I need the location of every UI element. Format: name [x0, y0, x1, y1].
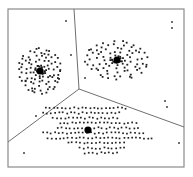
data-point	[86, 112, 88, 114]
data-point	[70, 132, 72, 134]
data-point	[98, 53, 100, 55]
data-point	[91, 142, 93, 144]
data-point	[122, 57, 124, 59]
data-point	[21, 66, 23, 68]
data-point	[93, 128, 95, 130]
data-point	[35, 69, 37, 71]
data-point	[128, 50, 130, 52]
data-point	[132, 52, 134, 54]
data-point	[31, 88, 33, 90]
data-point	[59, 63, 61, 65]
data-point	[99, 122, 101, 124]
data-point	[51, 76, 53, 78]
data-point	[116, 152, 118, 154]
data-point	[57, 81, 59, 83]
data-point	[60, 118, 62, 120]
data-point	[102, 42, 104, 44]
data-point	[101, 151, 103, 153]
data-point	[58, 78, 60, 80]
data-point	[99, 142, 101, 144]
data-point	[130, 61, 132, 63]
data-point	[117, 72, 119, 74]
data-point	[120, 147, 122, 149]
data-point	[66, 133, 68, 135]
data-point	[106, 132, 108, 134]
data-point	[22, 58, 24, 60]
data-point	[53, 74, 55, 76]
data-point	[99, 148, 101, 150]
data-point	[49, 86, 51, 88]
data-point	[42, 132, 44, 134]
data-point	[96, 57, 98, 59]
data-point	[125, 127, 127, 129]
data-point	[106, 128, 108, 130]
data-point	[164, 100, 166, 102]
voronoi-cluster-diagram	[0, 0, 193, 177]
diagram-canvas	[0, 0, 193, 177]
data-point	[119, 142, 121, 144]
boundary-line	[8, 89, 79, 142]
data-point	[41, 52, 43, 54]
data-point	[111, 122, 113, 124]
data-point	[21, 80, 23, 82]
data-point	[19, 76, 21, 78]
data-point	[72, 122, 74, 124]
data-point	[39, 81, 41, 83]
data-point	[47, 65, 49, 67]
data-point	[90, 49, 92, 51]
data-point	[113, 107, 115, 109]
centroid-marker	[84, 126, 91, 133]
data-point	[107, 44, 109, 46]
data-point	[48, 68, 50, 70]
data-point	[65, 118, 67, 120]
data-point	[68, 117, 70, 119]
data-point	[115, 148, 117, 150]
data-point	[30, 72, 32, 74]
data-point	[129, 128, 131, 130]
data-point	[107, 77, 109, 79]
data-point	[108, 118, 110, 120]
data-point	[111, 59, 113, 61]
data-point	[92, 152, 94, 154]
data-point	[77, 127, 79, 129]
data-point	[101, 127, 103, 129]
data-point	[139, 68, 141, 70]
data-point	[79, 137, 81, 139]
data-point	[119, 56, 121, 58]
data-point	[106, 112, 108, 114]
data-point	[138, 51, 140, 53]
data-point	[58, 132, 60, 134]
data-point	[36, 48, 38, 50]
data-point	[92, 64, 94, 66]
data-point	[109, 107, 111, 109]
data-point	[54, 86, 56, 88]
data-point	[79, 122, 81, 124]
data-point	[107, 122, 109, 124]
data-point	[83, 122, 85, 124]
data-point	[57, 74, 59, 76]
data-point	[31, 77, 33, 79]
data-point	[95, 148, 97, 150]
data-point	[113, 127, 115, 129]
data-point	[115, 142, 117, 144]
data-point	[105, 107, 107, 109]
data-point	[54, 80, 56, 82]
data-point	[178, 142, 180, 144]
data-point	[46, 132, 48, 134]
data-point	[59, 70, 61, 72]
voronoi-boundaries	[8, 9, 184, 142]
data-point	[48, 54, 50, 56]
data-point	[106, 70, 108, 72]
data-point	[31, 63, 33, 65]
data-point	[42, 112, 44, 114]
cluster-points	[18, 20, 180, 154]
data-point	[119, 52, 121, 54]
data-point	[117, 47, 119, 49]
data-point	[41, 80, 43, 82]
data-point	[48, 81, 50, 83]
centroid-marker	[113, 56, 120, 63]
data-point	[110, 57, 112, 59]
data-point	[21, 63, 23, 65]
data-point	[107, 147, 109, 149]
data-point	[41, 55, 43, 57]
